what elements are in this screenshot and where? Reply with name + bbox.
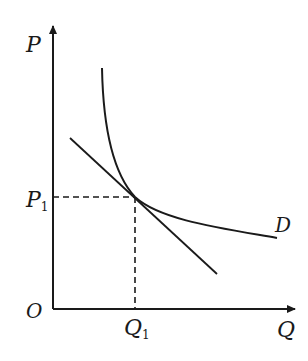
p1-label: P1: [25, 187, 48, 214]
demand-curve: [102, 68, 277, 238]
q1-label: Q1: [124, 315, 150, 342]
demand-chart: P Q O P1 Q1 D: [0, 0, 308, 361]
x-axis-label: Q: [277, 317, 295, 342]
tangent-line: [70, 138, 217, 274]
origin-label: O: [26, 299, 42, 323]
y-axis-label: P: [25, 32, 42, 57]
curve-label-d: D: [274, 213, 291, 237]
